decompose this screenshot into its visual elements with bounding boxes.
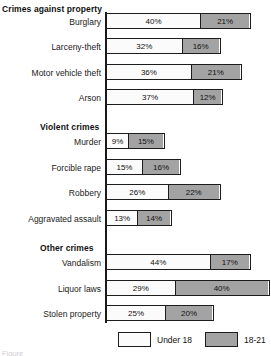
bar-segment-18-21: 22% (168, 185, 219, 199)
bar-value-18-21: 20% (181, 309, 197, 318)
bar-value-18-21: 21% (217, 17, 233, 26)
bar-value-under-18: 40% (146, 17, 162, 26)
bar-segment-18-21: 15% (128, 134, 163, 148)
stacked-bar: 25%20% (106, 305, 214, 321)
stacked-bar: 13%14% (106, 210, 172, 226)
stacked-bar: 37%12% (106, 89, 223, 105)
bar-value-under-18: 15% (116, 163, 132, 172)
stacked-bar: 36%21% (106, 64, 242, 80)
stacked-bar: 40%21% (106, 13, 251, 29)
chart-legend: Under 18 18-21 (118, 332, 271, 347)
bar-segment-under-18: 25% (107, 306, 165, 320)
row-label: Vandalism (0, 258, 101, 268)
row-label: Burglary (0, 17, 101, 27)
bar-value-under-18: 25% (128, 309, 144, 318)
legend-swatch-under-18 (118, 332, 151, 347)
bar-segment-18-21: 40% (175, 281, 268, 295)
bar-value-under-18: 9% (112, 137, 124, 146)
bar-value-18-21: 40% (214, 284, 230, 293)
row-label: Forcible rape (0, 163, 101, 173)
caption-stub: Figure (2, 349, 23, 356)
bar-segment-under-18: 9% (107, 134, 128, 148)
bar-value-under-18: 29% (133, 284, 149, 293)
row-label: Arson (0, 93, 101, 103)
bar-segment-18-21: 21% (200, 14, 249, 28)
stacked-bar-chart: Crimes against propertyBurglary40%21%Lar… (0, 0, 271, 356)
row-label: Motor vehicle theft (0, 68, 101, 78)
bar-value-18-21: 22% (186, 188, 202, 197)
legend-label-18-21: 18-21 (244, 335, 266, 345)
bar-segment-under-18: 37% (107, 90, 193, 104)
bar-segment-18-21: 12% (193, 90, 221, 104)
bar-value-18-21: 14% (146, 214, 162, 223)
group-header: Violent crimes (0, 122, 143, 132)
row-label: Robbery (0, 188, 101, 198)
legend-swatch-18-21 (205, 332, 238, 347)
bar-value-under-18: 36% (141, 68, 157, 77)
stacked-bar: 26%22% (106, 184, 221, 200)
bar-value-18-21: 17% (222, 258, 238, 267)
bar-segment-18-21: 14% (137, 211, 170, 225)
bar-value-under-18: 32% (136, 42, 152, 51)
bar-value-18-21: 21% (208, 68, 224, 77)
bar-segment-18-21: 16% (182, 39, 219, 53)
bar-segment-under-18: 36% (107, 65, 191, 79)
bar-segment-under-18: 13% (107, 211, 137, 225)
row-label: Larceny-theft (0, 42, 101, 52)
bar-segment-under-18: 32% (107, 39, 182, 53)
stacked-bar: 15%16% (106, 159, 181, 175)
bar-value-under-18: 26% (129, 188, 145, 197)
row-label: Murder (0, 137, 101, 147)
bar-segment-under-18: 26% (107, 185, 168, 199)
stacked-bar: 9%15% (106, 133, 165, 149)
legend-label-under-18: Under 18 (157, 335, 192, 345)
bar-value-18-21: 16% (193, 42, 209, 51)
bar-segment-under-18: 15% (107, 160, 142, 174)
bar-value-18-21: 12% (200, 93, 216, 102)
group-header: Crimes against property (0, 4, 105, 14)
bar-segment-18-21: 16% (142, 160, 179, 174)
row-label: Liquor laws (0, 284, 101, 294)
bar-segment-18-21: 21% (191, 65, 240, 79)
stacked-bar: 29%40% (106, 280, 270, 296)
bar-value-18-21: 15% (138, 137, 154, 146)
bar-value-under-18: 44% (150, 258, 166, 267)
bar-segment-under-18: 29% (107, 281, 175, 295)
bar-segment-under-18: 44% (107, 255, 210, 269)
bar-segment-18-21: 20% (165, 306, 212, 320)
group-header: Other crimes (0, 243, 143, 253)
row-label: Stolen property (0, 309, 101, 319)
bar-value-18-21: 16% (153, 163, 169, 172)
stacked-bar: 32%16% (106, 38, 221, 54)
bar-segment-18-21: 17% (210, 255, 250, 269)
stacked-bar: 44%17% (106, 254, 251, 270)
row-label: Aggravated assault (0, 214, 101, 224)
bar-value-under-18: 37% (142, 93, 158, 102)
bar-segment-under-18: 40% (107, 14, 200, 28)
bar-value-under-18: 13% (114, 214, 130, 223)
